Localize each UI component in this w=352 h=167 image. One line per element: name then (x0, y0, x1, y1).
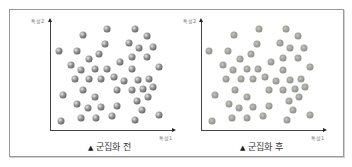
data-point (296, 94, 303, 101)
data-point (254, 41, 261, 48)
data-point (150, 84, 157, 91)
data-point (236, 105, 243, 112)
data-point (111, 74, 118, 81)
data-point (230, 67, 237, 74)
data-point (78, 67, 85, 74)
y-axis (50, 21, 51, 131)
x-axis-arrow-icon (172, 128, 176, 132)
data-point (229, 115, 236, 122)
data-point (104, 66, 111, 73)
data-point (268, 59, 275, 66)
data-point (226, 101, 233, 108)
data-point (98, 76, 105, 83)
data-point (283, 26, 290, 33)
data-point (56, 48, 63, 55)
data-point (92, 66, 99, 73)
data-point (98, 104, 105, 111)
data-point (80, 32, 87, 39)
data-point (212, 92, 219, 99)
data-point (260, 113, 267, 120)
data-point (132, 117, 139, 124)
data-point (287, 77, 294, 84)
data-point (58, 118, 65, 125)
caption-before: ▲군집화 전 (88, 140, 131, 153)
data-point (102, 41, 109, 48)
data-point (150, 44, 157, 51)
data-point (92, 94, 99, 101)
data-point (209, 118, 216, 125)
data-point (244, 94, 251, 101)
data-point (238, 76, 245, 83)
data-point (280, 55, 287, 62)
data-point (74, 48, 81, 55)
x-axis-label: 특성1 (311, 134, 324, 141)
x-axis (201, 130, 324, 131)
data-point (244, 115, 251, 122)
data-point (262, 74, 269, 81)
data-point (129, 87, 136, 94)
data-point (129, 54, 136, 61)
y-axis-label: 특성2 (31, 17, 44, 24)
data-point (93, 115, 100, 122)
data-point (96, 51, 103, 58)
data-point (145, 94, 152, 101)
data-point (139, 107, 146, 114)
data-point (132, 26, 139, 33)
data-point (248, 51, 255, 58)
data-point (117, 59, 124, 66)
data-point (156, 64, 163, 71)
y-axis-label: 특성2 (183, 17, 196, 24)
data-point (121, 78, 128, 85)
data-point (286, 98, 293, 105)
data-point (292, 86, 299, 93)
data-point (302, 84, 309, 91)
y-axis-arrow-icon (199, 18, 203, 22)
data-point (277, 40, 284, 47)
data-point (280, 67, 287, 74)
data-point (104, 26, 111, 33)
data-point (295, 55, 302, 62)
data-point (85, 105, 92, 112)
data-point (129, 66, 136, 73)
caption-text: 군집화 전 (96, 142, 131, 152)
data-point (232, 87, 239, 94)
data-point (135, 77, 142, 84)
data-point (86, 76, 93, 83)
data-point (80, 87, 87, 94)
data-point (280, 87, 287, 94)
data-point (298, 76, 305, 83)
triangle-marker-icon: ▲ (240, 144, 245, 152)
data-point (250, 104, 257, 111)
y-axis (201, 21, 202, 131)
data-point (223, 76, 230, 83)
data-point (86, 56, 93, 63)
data-point (156, 112, 163, 119)
y-axis-arrow-icon (48, 18, 52, 22)
x-axis-label: 특성1 (159, 134, 172, 141)
data-point (266, 103, 273, 110)
data-point (284, 117, 291, 124)
x-axis (50, 130, 173, 131)
data-point (250, 76, 257, 83)
data-point (307, 64, 314, 71)
data-point (68, 62, 75, 69)
data-point (74, 101, 81, 108)
data-point (287, 45, 294, 52)
figure-frame (9, 9, 344, 157)
data-point (256, 26, 263, 33)
data-point (301, 45, 308, 52)
data-point (134, 98, 141, 105)
data-point (206, 48, 213, 55)
data-point (231, 32, 238, 39)
data-point (290, 107, 297, 114)
data-point (273, 78, 280, 85)
x-axis-arrow-icon (323, 128, 327, 132)
data-point (255, 66, 262, 73)
caption-text: 군집화 후 (248, 142, 283, 152)
data-point (307, 112, 314, 119)
triangle-marker-icon: ▲ (88, 144, 93, 152)
data-point (244, 66, 251, 73)
data-point (146, 76, 153, 83)
data-point (295, 33, 302, 40)
data-point (144, 54, 151, 61)
